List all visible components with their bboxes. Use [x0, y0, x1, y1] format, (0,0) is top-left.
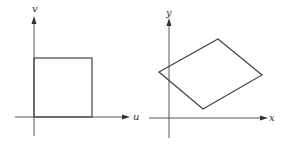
- y-axis-label: y: [165, 7, 172, 18]
- x-axis-label: x: [269, 112, 275, 123]
- u-axis-label: u: [133, 111, 139, 122]
- diagram-canvas: v u y x: [0, 0, 282, 145]
- x-axis-arrow-icon: [260, 116, 268, 121]
- unit-square: [34, 58, 92, 117]
- uv-plane-panel: v u: [15, 3, 139, 136]
- v-axis-arrow-icon: [32, 16, 37, 24]
- xy-plane-panel: y x: [149, 7, 275, 138]
- y-axis-arrow-icon: [167, 18, 172, 26]
- u-axis-arrow-icon: [122, 115, 130, 120]
- image-parallelogram: [159, 39, 262, 109]
- v-axis-label: v: [32, 3, 38, 14]
